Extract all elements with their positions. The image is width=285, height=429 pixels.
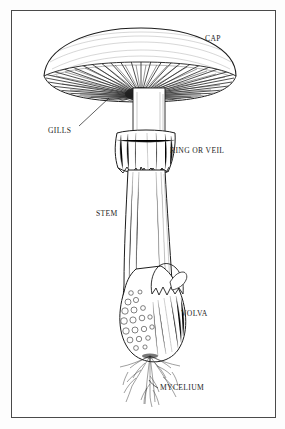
label-mycelium: MYCELIUM <box>160 384 204 392</box>
volva <box>120 264 187 362</box>
label-stem: STEM <box>96 210 118 218</box>
label-volva: VOLVA <box>181 310 208 318</box>
mycelium-hub <box>142 353 158 358</box>
leader-line-gills <box>79 98 109 126</box>
label-cap: CAP <box>205 35 221 43</box>
label-gills: GILLS <box>48 127 71 135</box>
label-ring-or-veil: RING OR VEIL <box>170 147 224 155</box>
figure-page: CAP GILLS RING OR VEIL STEM VOLVA MYCELI… <box>0 0 285 429</box>
mushroom-illustration <box>0 0 285 429</box>
